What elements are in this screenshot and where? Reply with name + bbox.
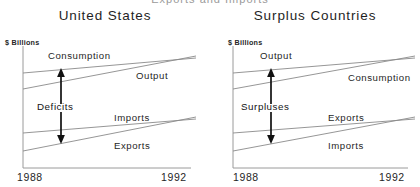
plot-area (210, 0, 420, 187)
series-label-imports: Imports (328, 140, 364, 151)
x-axis-start-year: 1988 (233, 171, 259, 183)
x-axis-end-year: 1992 (161, 171, 187, 183)
series-label-exports: Exports (328, 112, 364, 123)
series-label-exports: Exports (114, 140, 150, 151)
x-axis-end-year: 1992 (379, 171, 405, 183)
series-label-output: Output (260, 50, 292, 61)
series-line-exports (23, 117, 196, 151)
series-label-output: Output (136, 70, 168, 81)
figure-canvas: Exports and Imports United States $ Bill… (0, 0, 420, 187)
series-line-exports (233, 119, 415, 133)
gap-label-surpluses: Surpluses (241, 101, 290, 112)
series-line-imports (23, 119, 196, 133)
panel-united-states: United States $ Billions Consumption (0, 0, 210, 187)
panel-surplus-countries: Surplus Countries $ Billions Output Cons… (210, 0, 420, 187)
gap-label-deficits: Deficits (37, 101, 74, 112)
series-line-imports (233, 117, 415, 151)
plot-area (0, 0, 210, 187)
series-label-consumption: Consumption (348, 72, 411, 83)
x-axis-start-year: 1988 (17, 171, 43, 183)
series-label-imports: Imports (114, 112, 150, 123)
series-label-consumption: Consumption (48, 50, 111, 61)
